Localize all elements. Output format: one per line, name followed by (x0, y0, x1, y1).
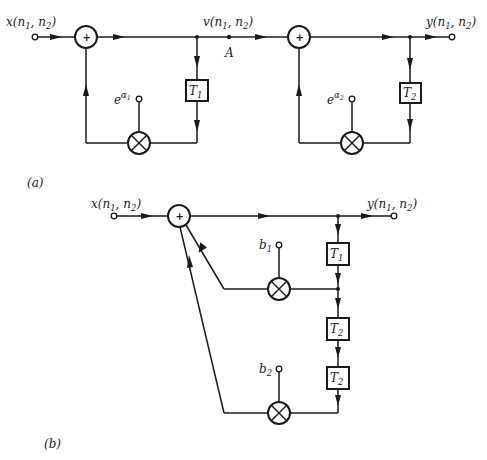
coef-label-a2: eα2 (327, 90, 344, 107)
wire (180, 227, 224, 413)
arrow-right-icon (255, 34, 267, 40)
plus-icon: + (296, 32, 304, 43)
arrow-down-icon (335, 273, 341, 284)
caption-a: (a) (27, 176, 44, 190)
arrow-right-icon (425, 34, 437, 40)
coef-terminal-1 (136, 96, 142, 102)
plus-icon: + (83, 32, 91, 43)
arrow-right-icon (113, 34, 125, 40)
figure-a: x(n1, n2) + T1 eα1 v(n1, (6, 15, 476, 190)
point-a-dot (227, 35, 231, 39)
figure-b: x(n1, n2) + y(n1, n2) T1 T2 T2 (44, 197, 417, 451)
arrow-down-icon (407, 119, 413, 131)
output-terminal-a (449, 34, 455, 40)
output-label-b: y(n1, n2) (366, 197, 417, 213)
mid-signal-label: v(n1, n2) (203, 15, 253, 31)
arrow-down-icon (335, 298, 341, 309)
output-terminal-b (391, 213, 397, 219)
arrow-up-icon (83, 84, 89, 96)
arrow-down-icon (335, 224, 341, 235)
coef-terminal-b1 (276, 242, 282, 248)
arrow-down-icon (335, 347, 341, 358)
input-label-b: x(n1, n2) (91, 197, 141, 213)
arrow-right-icon (141, 213, 153, 219)
caption-b: (b) (44, 437, 61, 451)
coef-label-b2: b2 (259, 362, 272, 378)
arrow-down-icon (407, 58, 413, 70)
arrow-right-icon (50, 34, 62, 40)
signal-flow-diagram: x(n1, n2) + T1 eα1 v(n1, (0, 0, 487, 460)
arrow-right-icon (361, 213, 373, 219)
coef-label-a1: eα1 (114, 90, 131, 107)
plus-icon: + (176, 211, 184, 222)
input-label-a: x(n1, n2) (6, 15, 56, 31)
input-terminal-b (111, 213, 117, 219)
coef-label-b1: b1 (259, 238, 272, 254)
coef-terminal-b2 (276, 366, 282, 372)
arrow-down-icon (194, 56, 200, 68)
arrow-right-icon (258, 213, 270, 219)
output-label-a: y(n1, n2) (425, 15, 476, 31)
point-a-label: A (224, 46, 234, 60)
arrow-down-icon (194, 120, 200, 132)
input-terminal-a (32, 34, 38, 40)
arrow-right-icon (382, 34, 394, 40)
arrow-up-icon (296, 84, 302, 96)
coef-terminal-2 (349, 96, 355, 102)
arrow-down-icon (335, 395, 341, 406)
